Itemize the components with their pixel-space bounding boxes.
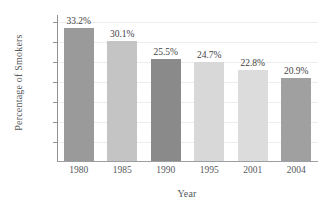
bar-value-label: 33.2% [66,16,91,26]
bar: 20.9% [281,78,311,161]
bar-value-label: 24.7% [197,50,222,60]
bar-value-label: 22.8% [240,58,265,68]
gridline [58,82,318,83]
x-tick-label: 1980 [69,165,88,175]
bar: 30.1% [107,41,137,161]
y-tick-mark [53,62,57,63]
plot-area: 5%10%15%20%25%30%35% 33.2%30.1%25.5%24.7… [57,15,318,162]
x-tick-label: 2001 [243,165,262,175]
x-axis-title: Year [56,188,318,199]
bar-chart: Percentage of Smokers 5%10%15%20%25%30%3… [0,0,323,208]
x-tick-label: 1985 [113,165,132,175]
bar-value-label: 30.1% [110,29,135,39]
y-tick-mark [53,42,57,43]
bar: 22.8% [238,70,268,161]
bar: 33.2% [64,28,94,161]
bar: 24.7% [194,62,224,161]
y-tick-mark [53,142,57,143]
y-axis-line [57,15,58,162]
y-axis-title: Percentage of Smokers [13,3,24,163]
gridline [58,22,318,23]
gridline [58,62,318,63]
x-tick-label: 1990 [156,165,175,175]
y-tick-mark [53,122,57,123]
bar: 25.5% [151,59,181,161]
y-tick-mark [53,22,57,23]
y-tick-mark [53,102,57,103]
x-tick-label: 1995 [200,165,219,175]
gridline [58,142,318,143]
gridline [58,102,318,103]
y-tick-mark [53,82,57,83]
bar-value-label: 25.5% [153,47,178,57]
gridline [58,122,318,123]
x-axis-line [57,161,318,162]
gridline [58,42,318,43]
x-tick-label: 2004 [287,165,306,175]
bar-value-label: 20.9% [284,66,309,76]
